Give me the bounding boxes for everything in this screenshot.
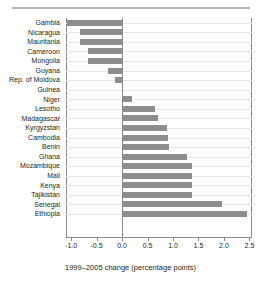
- table-row: [66, 85, 252, 95]
- zero-baseline: [122, 18, 123, 238]
- category-label: Ethiopia: [0, 209, 63, 219]
- bar: [88, 48, 122, 54]
- bar: [122, 192, 192, 198]
- axis-tick-label: -1.0: [65, 242, 77, 249]
- plot-area: [66, 18, 252, 238]
- row-gridline: [66, 109, 252, 110]
- category-label: Mongolia: [0, 56, 63, 66]
- bar: [115, 77, 122, 83]
- bar: [122, 96, 132, 102]
- row-gridline: [66, 90, 252, 91]
- axis-tick: [249, 238, 250, 241]
- axis-tick: [173, 238, 174, 241]
- axis-tick-label: 1.0: [168, 242, 178, 249]
- bar: [80, 39, 122, 45]
- axis-tick-label: 2.5: [245, 242, 255, 249]
- category-label: Gambia: [0, 18, 63, 28]
- axis-tick-label: 1.5: [194, 242, 204, 249]
- table-row: [66, 209, 252, 219]
- axis-tick-label: 0.0: [117, 242, 127, 249]
- row-gridline: [66, 71, 252, 72]
- category-label: Kenya: [0, 181, 63, 191]
- category-label: Senegal: [0, 200, 63, 210]
- bar: [108, 68, 122, 74]
- table-row: [66, 75, 252, 85]
- axis-tick-label: -0.5: [91, 242, 103, 249]
- top-divider-rule: [12, 7, 250, 9]
- category-label: Madagascar: [0, 114, 63, 124]
- axis-tick: [122, 238, 123, 241]
- table-row: [66, 181, 252, 191]
- table-row: [66, 171, 252, 181]
- axis-tick: [148, 238, 149, 241]
- value-axis: -1.0-0.50.00.51.01.52.02.5: [66, 238, 252, 258]
- bar: [122, 211, 247, 217]
- category-axis-labels: GambiaNicaraguaMauritaniaCameroonMongoli…: [0, 18, 63, 238]
- bar-chart-figure: GambiaNicaraguaMauritaniaCameroonMongoli…: [0, 0, 261, 283]
- category-label: Mozambique: [0, 161, 63, 171]
- bar: [122, 125, 167, 131]
- table-row: [66, 190, 252, 200]
- axis-tick: [198, 238, 199, 241]
- bar: [122, 135, 168, 141]
- category-label: Lesotho: [0, 104, 63, 114]
- bar: [80, 29, 122, 35]
- row-gridline: [66, 80, 252, 81]
- category-label: Guyana: [0, 66, 63, 76]
- table-row: [66, 133, 252, 143]
- table-row: [66, 142, 252, 152]
- value-axis-title: 1999–2005 change (percentage points): [0, 263, 261, 272]
- category-label: Kyrgyzstan: [0, 123, 63, 133]
- row-gridline: [66, 99, 252, 100]
- table-row: [66, 47, 252, 57]
- bar: [122, 182, 192, 188]
- category-label: Niger: [0, 95, 63, 105]
- table-row: [66, 104, 252, 114]
- category-label: Ghana: [0, 152, 63, 162]
- axis-tick: [97, 238, 98, 241]
- category-label: Tajikistan: [0, 190, 63, 200]
- axis-tick: [71, 238, 72, 241]
- bar: [88, 58, 122, 64]
- bar: [122, 201, 222, 207]
- bar: [122, 106, 155, 112]
- category-label: Mauritania: [0, 37, 63, 47]
- table-row: [66, 37, 252, 47]
- bar: [122, 163, 192, 169]
- table-row: [66, 161, 252, 171]
- table-row: [66, 123, 252, 133]
- table-row: [66, 66, 252, 76]
- table-row: [66, 95, 252, 105]
- axis-tick-label: 2.0: [219, 242, 229, 249]
- table-row: [66, 152, 252, 162]
- table-row: [66, 56, 252, 66]
- bar: [122, 115, 158, 121]
- axis-tick-label: 0.5: [143, 242, 153, 249]
- category-label: Nicaragua: [0, 28, 63, 38]
- table-row: [66, 18, 252, 28]
- row-gridline: [66, 118, 252, 119]
- table-row: [66, 200, 252, 210]
- category-label: Cambodia: [0, 133, 63, 143]
- table-row: [66, 114, 252, 124]
- bar: [67, 20, 122, 26]
- category-label: Cameroon: [0, 47, 63, 57]
- axis-tick: [224, 238, 225, 241]
- bar: [122, 154, 187, 160]
- category-label: Rep. of Moldova: [0, 75, 63, 85]
- bar: [122, 173, 192, 179]
- bar-rows: [66, 18, 252, 219]
- bar: [122, 144, 169, 150]
- category-label: Guinea: [0, 85, 63, 95]
- category-label: Mali: [0, 171, 63, 181]
- table-row: [66, 28, 252, 38]
- category-label: Benin: [0, 142, 63, 152]
